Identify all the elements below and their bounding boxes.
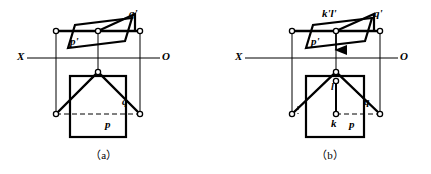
vertex-marker	[377, 111, 382, 116]
label-q-prime-b: q'	[374, 7, 383, 19]
panel-b	[245, 14, 398, 137]
label-p-b: p	[349, 118, 355, 130]
label-q-prime-a: q'	[129, 7, 138, 19]
label-p-prime-a: p'	[70, 35, 79, 47]
vertex-marker	[333, 78, 338, 83]
vertex-marker	[333, 69, 338, 74]
h-triangle-a	[56, 72, 140, 114]
vertex-marker	[333, 111, 338, 116]
label-l-b: l	[331, 81, 334, 92]
projection-drawing-canvas	[0, 0, 431, 174]
label-q-b: q	[364, 95, 370, 107]
vertex-marker	[53, 111, 58, 116]
label-p-a: p	[105, 118, 111, 130]
axis-label-o-a: O	[162, 50, 170, 62]
axis-label-o-b: O	[400, 50, 408, 62]
vertex-marker	[95, 69, 100, 74]
axis-label-x-b: X	[235, 50, 242, 62]
label-q-a: q	[122, 95, 128, 107]
label-k-prime-l-prime-b: k'l'	[322, 7, 337, 19]
vertex-marker	[289, 111, 294, 116]
vertex-marker	[137, 28, 142, 33]
panel-a	[27, 14, 160, 137]
axis-label-x-a: X	[17, 50, 24, 62]
vertex-marker	[333, 28, 338, 33]
vertex-marker	[137, 111, 142, 116]
vertex-marker	[95, 28, 100, 33]
caption-panel-b: （b）	[316, 146, 344, 162]
label-p-prime-b: p'	[311, 35, 320, 47]
projection-figure-container: X O q' p' q p （a） X O k'l' q' p' l q k p…	[0, 0, 431, 174]
h-square-a	[70, 76, 126, 137]
label-k-b: k	[331, 117, 337, 129]
vertex-marker	[289, 28, 294, 33]
vertex-marker	[53, 28, 58, 33]
vertex-marker	[377, 28, 382, 33]
caption-panel-a: （a）	[90, 146, 117, 162]
